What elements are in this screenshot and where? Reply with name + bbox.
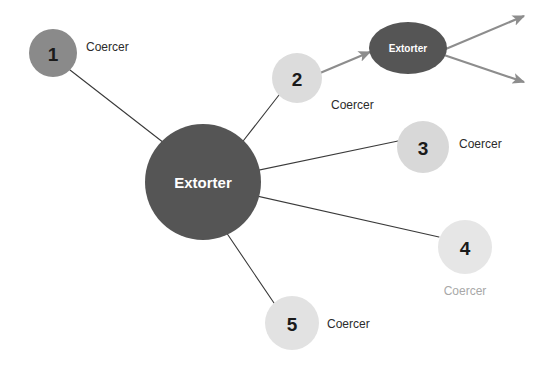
node-number-coercer-5: 5	[287, 314, 298, 335]
edge-hub-coercer-5	[226, 232, 274, 303]
network-diagram: ExtorterExtorter1Coercer2Coercer3Coercer…	[0, 0, 539, 369]
edge-hub-coercer-1	[70, 70, 164, 143]
nodes-layer	[29, 22, 492, 350]
secondary-hub-node-label: Extorter	[389, 43, 427, 54]
node-number-coercer-1: 1	[48, 44, 59, 65]
arrow-coercer-2-to-extorter	[320, 52, 370, 73]
arrow-extorter-out-lower	[441, 54, 524, 82]
node-caption-coercer-3: Coercer	[459, 137, 502, 151]
edge-hub-coercer-2	[240, 95, 279, 145]
node-caption-coercer-1: Coercer	[86, 40, 129, 54]
node-caption-coercer-4: Coercer	[444, 284, 487, 298]
diagram-canvas: ExtorterExtorter1Coercer2Coercer3Coercer…	[0, 0, 539, 369]
node-number-coercer-2: 2	[292, 69, 303, 90]
node-number-coercer-3: 3	[418, 138, 429, 159]
node-caption-coercer-2: Coercer	[331, 98, 374, 112]
node-number-coercer-4: 4	[460, 238, 471, 259]
edge-hub-coercer-3	[250, 141, 398, 172]
node-caption-coercer-5: Coercer	[327, 317, 370, 331]
edge-hub-coercer-4	[248, 194, 439, 237]
hub-node-label: Extorter	[174, 174, 232, 191]
arrow-extorter-out-upper	[441, 16, 524, 51]
